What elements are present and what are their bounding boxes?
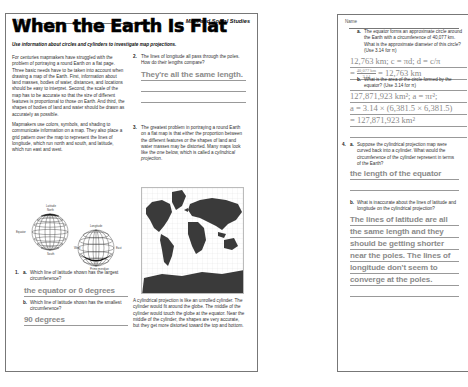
answer-4b-line: The lines of latitude are all [350,214,459,226]
question-a-text: The equator forms an approximate circle … [364,29,467,54]
question-letter: b. [350,200,357,213]
intro-paragraph: Mapmakers use colors, symbols, and shadi… [12,122,125,153]
equator-label: Equator [16,230,26,234]
name-label: Name [345,19,357,24]
question-number: 3. [133,125,141,163]
answer-4b-line: the same length and they [350,226,459,238]
answer-blank-line[interactable] [141,92,246,103]
question-b: b. What is the area of the circle formed… [350,77,467,138]
latitude-globe-icon [12,205,130,270]
question-letter: b. [23,300,30,313]
intro-text: For centuries mapmakers have struggled w… [12,55,125,157]
answer-4b[interactable]: The lines of latitude are all the same l… [350,214,459,297]
answer-b-line-2[interactable]: a = 3.14 × (6,381.5 × 6,381.5) [350,103,467,115]
question-b-text: What is the area of the circle formed by… [364,77,467,90]
intro-paragraph: For centuries mapmakers have struggled w… [12,55,125,118]
question-number: 2. [133,54,141,67]
answer-4b-line: longitude don't seem to [350,262,459,274]
question-2-text: The lines of longitude all pass through … [141,54,246,67]
west-label: West [74,246,80,250]
question-4a: 4. a. Suppose the cylindrical projection… [342,142,459,191]
page-subtitle: Use information about circles and cylind… [12,42,176,47]
question-1b-text: Which line of latitude shown has the sma… [30,300,128,313]
answer-blank-line[interactable] [141,81,246,92]
answer-b-line-3[interactable]: = 127,871,923 km² [350,115,467,127]
name-field-row: Name [345,19,468,29]
question-letter: a. [350,142,357,167]
question-1a-text: Which line of latitude shown has the lar… [30,270,128,283]
east-label: East [116,246,122,250]
answer-2[interactable]: They're all the same length. [141,69,246,81]
answer-1a[interactable]: the equator or 0 degrees [24,285,128,297]
answer-1b[interactable]: 90 degrees [24,314,128,326]
question-number: 1. [15,270,23,283]
answer-blank-line[interactable] [350,286,459,297]
longitude-label: Longitude [90,224,102,228]
question-4a-text: Suppose the cylindrical projection map w… [357,142,459,167]
question-3-text-end: . [161,156,162,161]
question-letter: b. [357,77,364,90]
answer-blank-line[interactable] [350,127,467,138]
question-letter: a. [23,270,30,283]
cylindrical-projection-map [141,187,244,294]
answer-a-line-1[interactable]: 12,763 km; c = πd; d = c/π [350,56,467,68]
worksheet-right-page: Name a. The equator forms an approximate… [337,14,468,372]
question-3: 3. The greatest problem in portraying a … [133,125,246,163]
north-label: North [47,208,54,212]
cylindrical-projection-description: A cylindrical projection is like an unro… [133,298,246,329]
world-map-icon [142,188,244,294]
answer-b-line-1[interactable]: 127,871,923 km²; a = πr²; [350,91,467,103]
question-letter: a. [357,29,364,54]
question-4b: b. What is inaccurate about the lines of… [342,200,459,297]
page-title: When the Earth Is Flat [12,16,227,36]
question-1: 1. a. Which line of latitude shown has t… [15,270,128,326]
answer-blank-line[interactable] [350,180,459,191]
globes-diagram: Latitude North Equator South Longitude W… [12,205,130,270]
answer-4a[interactable]: the length of the equator [350,168,459,180]
question-4b-text: What is inaccurate about the lines of la… [357,200,459,213]
south-label: South [47,252,54,256]
answer-4b-line: converge at the poles. [350,274,459,286]
question-2: 2. The lines of longitude all pass throu… [133,54,246,103]
question-3-text: The greatest problem in portraying a rou… [141,125,246,163]
question-number: 4. [342,142,350,167]
answer-4b-line: near the poles. The lines of [350,250,459,262]
answer-4b-line: should be getting shorter [350,238,459,250]
